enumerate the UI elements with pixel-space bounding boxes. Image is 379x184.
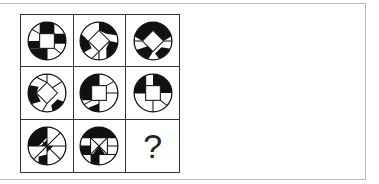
cell-r2c1 (21, 67, 74, 119)
figure-circle-square (78, 72, 120, 114)
figure-circle-diamond (132, 20, 174, 62)
figure-circle-hourglass (78, 125, 120, 167)
cell-r3c3-missing: ? (126, 120, 179, 172)
figure-circle-diamond (26, 72, 68, 114)
cell-r2c2 (74, 67, 127, 119)
question-mark: ? (143, 129, 162, 163)
figure-circle-square (26, 20, 68, 62)
figure-circle-pinwheel (26, 125, 68, 167)
figure-circle-diamond (78, 20, 120, 62)
cell-r3c1 (21, 120, 74, 172)
cell-r1c2 (74, 15, 127, 67)
cell-r2c3 (126, 67, 179, 119)
figure-circle-square (132, 72, 174, 114)
cell-r1c1 (21, 15, 74, 67)
puzzle-grid: ? (20, 14, 180, 173)
cell-r1c3 (126, 15, 179, 67)
cell-r3c2 (74, 120, 127, 172)
